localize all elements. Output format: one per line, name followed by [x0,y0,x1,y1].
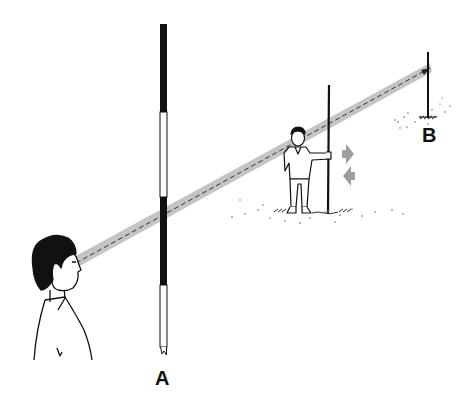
ranging-illustration [0,0,465,401]
arrow-right-icon [342,144,354,164]
ground-hatch-assistant [274,209,351,214]
pole-b-label: B [422,125,436,145]
ranging-pole-b [419,52,437,119]
ranging-pole-intermediate [327,85,329,214]
line-of-sight [72,63,432,268]
arrow-left-icon [343,166,355,186]
ranging-pole-a [160,24,167,355]
move-arrows [342,144,355,186]
pole-a-label: A [155,368,169,388]
